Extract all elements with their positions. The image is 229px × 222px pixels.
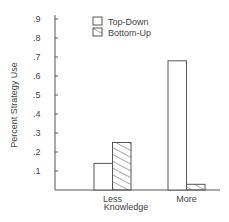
- bar-less-bottom-up: [113, 143, 132, 191]
- y-tick-label: .2: [33, 147, 41, 157]
- bar-less-top-down: [94, 163, 113, 190]
- y-tick-label: .6: [33, 71, 41, 81]
- y-tick-label: .7: [33, 52, 41, 62]
- x-tick-label: More: [176, 194, 197, 204]
- y-tick-label: .4: [33, 109, 41, 119]
- bar-chart: .1.2.3.4.5.6.7.8.9 LessMore Top-DownBott…: [0, 0, 229, 222]
- legend-label: Top-Down: [108, 17, 149, 27]
- x-axis-title: Knowledge: [104, 202, 149, 212]
- y-tick-label: .1: [33, 166, 41, 176]
- bar-more-top-down: [168, 61, 187, 190]
- y-tick-label: .3: [33, 128, 41, 138]
- y-tick-label: .5: [33, 90, 41, 100]
- legend-label: Bottom-Up: [108, 28, 151, 38]
- bar-more-bottom-up: [187, 184, 206, 190]
- bars: LessMore: [94, 61, 205, 204]
- legend: Top-DownBottom-Up: [93, 17, 151, 38]
- y-tick-label: .8: [33, 33, 41, 43]
- legend-swatch-bottom-up: [93, 28, 102, 36]
- y-tick-label: .9: [33, 14, 41, 24]
- y-axis-title: Percent Strategy Use: [9, 62, 19, 148]
- legend-swatch-top-down: [93, 17, 102, 25]
